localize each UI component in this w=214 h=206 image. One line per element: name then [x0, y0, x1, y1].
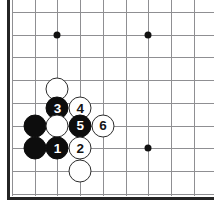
grid-line-vertical — [148, 0, 149, 196]
go-diagram-root: 345612 — [0, 0, 214, 206]
grid-line-horizontal — [12, 12, 214, 13]
stone-move-number: 3 — [54, 101, 61, 115]
stone-move-number: 6 — [99, 119, 106, 133]
grid-line-horizontal — [12, 35, 214, 36]
grid-line-vertical — [171, 0, 172, 196]
white-stone-plain-center[interactable] — [46, 114, 69, 137]
star-point-upper-left — [54, 31, 61, 38]
stone-move-number: 2 — [76, 141, 83, 155]
grid-line-vertical — [103, 0, 104, 196]
black-stone-plain-left-upper[interactable] — [23, 114, 46, 137]
black-stone-move-1[interactable]: 1 — [46, 137, 69, 160]
star-point-lower-right — [145, 145, 152, 152]
black-stone-plain-left-lower[interactable] — [23, 137, 46, 160]
grid-line-horizontal — [12, 171, 214, 172]
star-point-upper-right — [145, 31, 152, 38]
white-stone-move-2[interactable]: 2 — [69, 137, 92, 160]
board-edge-left — [7, 0, 10, 197]
grid-line-vertical — [12, 0, 13, 196]
grid-line-vertical — [194, 0, 195, 196]
white-stone-move-6[interactable]: 6 — [91, 114, 114, 137]
grid-line-horizontal — [12, 103, 214, 104]
go-board[interactable]: 345612 — [0, 0, 214, 206]
white-stone-plain-bottom[interactable] — [69, 159, 92, 182]
stone-move-number: 5 — [76, 119, 83, 133]
board-edge-bottom — [7, 197, 214, 200]
grid-line-vertical — [35, 0, 36, 196]
stone-move-number: 4 — [76, 101, 83, 115]
stone-move-number: 1 — [54, 141, 61, 155]
grid-line-horizontal — [12, 57, 214, 58]
grid-line-horizontal — [12, 194, 214, 195]
grid-line-horizontal — [12, 80, 214, 81]
grid-line-vertical — [126, 0, 127, 196]
black-stone-move-5[interactable]: 5 — [69, 114, 92, 137]
